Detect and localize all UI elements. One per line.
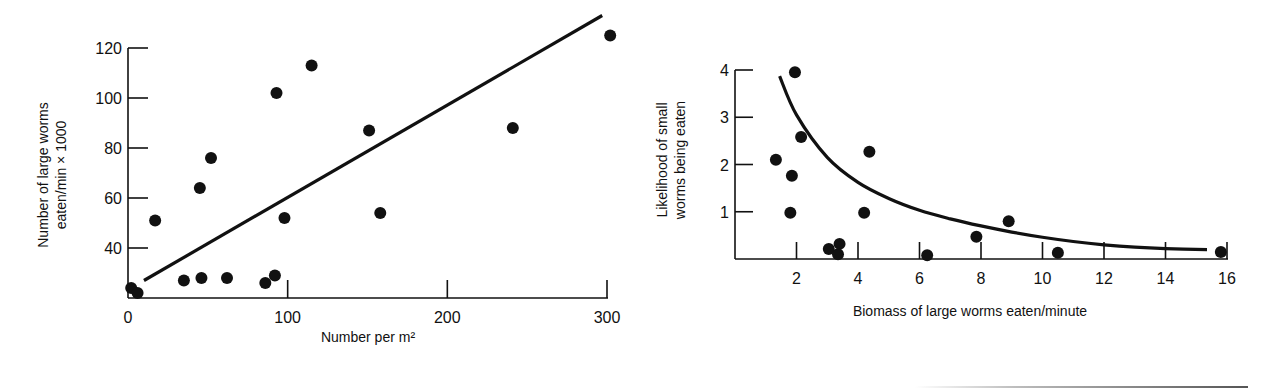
left-scatter-chart: 406080100120 0100200300 Number per m² Nu… <box>35 16 620 346</box>
right-scatter-chart: 1234 246810121416 Biomass of large worms… <box>654 62 1236 319</box>
data-point <box>604 30 616 42</box>
data-point <box>1003 215 1015 227</box>
data-point <box>863 146 875 158</box>
data-point <box>789 66 801 78</box>
data-point <box>363 125 375 137</box>
x-tick-label: 100 <box>274 309 301 326</box>
data-point <box>795 131 807 143</box>
data-point <box>786 170 798 182</box>
right-x-axis-title: Biomass of large worms eaten/minute <box>853 303 1087 319</box>
right-y-axis-title-line1: Likelihood of small <box>654 102 670 217</box>
x-tick-label: 6 <box>915 270 924 287</box>
data-point <box>205 152 217 164</box>
x-tick-label: 2 <box>792 270 801 287</box>
right-y-axis-title-line2: worms being eaten <box>672 101 688 220</box>
y-tick-label: 1 <box>720 204 729 221</box>
data-point <box>259 277 271 289</box>
data-point <box>374 207 386 219</box>
page-rule-divider <box>915 386 1248 388</box>
y-tick-label: 40 <box>104 240 122 257</box>
data-point <box>834 238 846 250</box>
y-tick-label: 100 <box>95 90 122 107</box>
left-x-axis-title: Number per m² <box>321 329 415 345</box>
y-tick-label: 60 <box>104 190 122 207</box>
data-point <box>149 215 161 227</box>
x-tick-label: 14 <box>1157 270 1175 287</box>
data-point <box>194 182 206 194</box>
x-tick-label: 300 <box>594 309 621 326</box>
left-data-points <box>125 30 616 300</box>
data-point <box>507 122 519 134</box>
data-point <box>270 87 282 99</box>
data-point <box>195 272 207 284</box>
y-tick-label: 120 <box>95 40 122 57</box>
y-tick-label: 80 <box>104 140 122 157</box>
data-point <box>1215 246 1227 258</box>
x-tick-label: 0 <box>124 309 133 326</box>
data-point <box>221 272 233 284</box>
data-point <box>306 60 318 72</box>
data-point <box>784 207 796 219</box>
x-tick-label: 12 <box>1095 270 1113 287</box>
data-point <box>269 270 281 282</box>
left-y-axis-title-line2: eaten/min × 1000 <box>53 121 69 230</box>
y-tick-label: 4 <box>720 62 729 79</box>
data-point <box>1052 247 1064 259</box>
data-point <box>178 275 190 287</box>
data-point <box>278 212 290 224</box>
right-fitted-curve <box>780 76 1207 249</box>
x-tick-label: 8 <box>977 270 986 287</box>
data-point <box>770 154 782 166</box>
y-tick-label: 3 <box>720 109 729 126</box>
left-y-ticks: 406080100120 <box>95 40 148 257</box>
data-point <box>132 287 144 299</box>
x-tick-label: 10 <box>1034 270 1052 287</box>
x-tick-label: 4 <box>854 270 863 287</box>
data-point <box>970 231 982 243</box>
data-point <box>921 249 933 261</box>
x-tick-label: 200 <box>434 309 461 326</box>
left-y-axis-title-line1: Number of large worms <box>35 102 51 248</box>
y-tick-label: 2 <box>720 157 729 174</box>
data-point <box>832 248 844 260</box>
right-y-ticks: 1234 <box>720 62 753 221</box>
left-x-ticks: 0100200300 <box>124 280 621 326</box>
right-data-points <box>770 66 1227 261</box>
data-point <box>858 207 870 219</box>
left-regression-line <box>144 16 602 281</box>
figure: 406080100120 0100200300 Number per m² Nu… <box>0 0 1272 390</box>
x-tick-label: 16 <box>1218 270 1236 287</box>
